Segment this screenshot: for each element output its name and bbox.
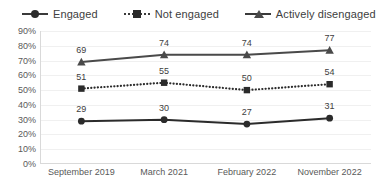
x-axis-tick-label: February 2022 [218, 168, 277, 177]
legend-label-not-engaged: Not engaged [155, 8, 219, 20]
legend-item-engaged[interactable]: Engaged [22, 8, 98, 20]
series-line [81, 83, 329, 90]
legend-label-actively-disengaged: Actively disengaged [276, 8, 376, 20]
data-point-marker[interactable] [326, 115, 333, 122]
legend-item-actively-disengaged[interactable]: Actively disengaged [245, 8, 376, 20]
x-axis-tick-label: September 2019 [48, 168, 115, 177]
series-layer [40, 31, 371, 164]
data-point-marker[interactable] [161, 80, 167, 86]
data-point-marker[interactable] [326, 81, 332, 87]
x-axis-tick-label: March 2021 [140, 168, 188, 177]
series-line [81, 50, 329, 62]
y-axis-tick-label: 50% [0, 86, 36, 95]
data-point-marker[interactable] [78, 85, 84, 91]
square-marker-icon [124, 8, 150, 20]
y-axis-tick-label: 90% [0, 27, 36, 36]
data-point-marker[interactable] [78, 118, 85, 125]
triangle-marker-icon [245, 8, 271, 20]
y-axis-tick-label: 60% [0, 71, 36, 80]
y-axis-tick-label: 40% [0, 100, 36, 109]
x-axis-tick-label: November 2022 [298, 168, 362, 177]
x-axis: September 2019March 2021February 2022Nov… [40, 168, 371, 186]
y-axis: 0%10%20%30%40%50%60%70%80%90% [0, 31, 36, 164]
series-line [81, 118, 329, 124]
circle-marker-icon [22, 8, 48, 20]
data-point-marker[interactable] [244, 87, 250, 93]
y-axis-tick-label: 10% [0, 145, 36, 154]
y-axis-tick-label: 80% [0, 41, 36, 50]
y-axis-tick-label: 70% [0, 56, 36, 65]
data-point-marker[interactable] [243, 121, 250, 128]
y-axis-tick-label: 30% [0, 115, 36, 124]
y-axis-tick-label: 20% [0, 130, 36, 139]
legend-item-not-engaged[interactable]: Not engaged [124, 8, 219, 20]
chart-legend: Engaged Not engaged Actively disengaged [0, 0, 372, 28]
y-axis-tick-label: 0% [0, 160, 36, 169]
data-point-marker[interactable] [161, 116, 168, 123]
legend-label-engaged: Engaged [53, 8, 98, 20]
